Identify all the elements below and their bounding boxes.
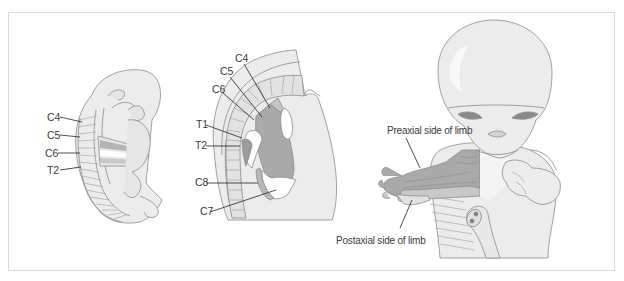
label-c7-panel2: C7 — [200, 206, 213, 217]
early-embryo-drawing — [76, 70, 162, 223]
label-t2-panel2: T2 — [195, 140, 207, 151]
label-t2-panel1: T2 — [47, 165, 59, 176]
label-c5-panel2: C5 — [220, 66, 233, 77]
fetus-drawing — [379, 20, 561, 258]
label-postaxial-side: Postaxial side of limb — [336, 236, 426, 246]
label-t1-panel2: T1 — [196, 119, 208, 130]
label-c4-panel2: C4 — [235, 53, 248, 64]
label-c5-panel1: C5 — [47, 130, 60, 141]
label-c8-panel2: C8 — [195, 177, 208, 188]
dermatome-illustration — [0, 0, 624, 281]
label-c4-panel1: C4 — [47, 112, 60, 123]
label-c6-panel1: C6 — [45, 148, 58, 159]
label-preaxial-side: Preaxial side of limb — [387, 126, 472, 136]
label-c6-panel2: C6 — [212, 84, 225, 95]
